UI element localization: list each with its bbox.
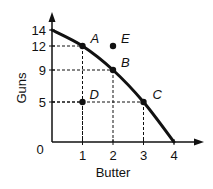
y-axis-arrow-icon xyxy=(49,12,56,22)
x-axis-arrow-icon xyxy=(194,139,204,146)
point-c-label: C xyxy=(153,87,163,102)
y-axis-label: Guns xyxy=(14,72,29,104)
point-d-marker xyxy=(79,99,85,105)
x-tick-label: 4 xyxy=(170,148,177,163)
y-tick-label: 14 xyxy=(32,23,46,38)
point-e-marker xyxy=(110,43,116,49)
x-tick-label: 2 xyxy=(109,148,116,163)
point-a-label: A xyxy=(90,31,100,46)
point-e-label: E xyxy=(121,31,130,46)
point-b-label: B xyxy=(121,55,130,70)
origin-label: 0 xyxy=(36,142,43,157)
y-tick-label: 9 xyxy=(39,63,46,78)
x-axis-label: Butter xyxy=(96,165,131,180)
x-tick-label: 1 xyxy=(79,148,86,163)
point-b-marker xyxy=(110,67,116,73)
ppf-chart: ABCDE 1234141295 Butter Guns 0 xyxy=(0,0,213,189)
x-tick-label: 3 xyxy=(140,148,147,163)
point-c-marker xyxy=(140,99,146,105)
data-points: ABCDE xyxy=(79,31,162,105)
point-d-label: D xyxy=(90,87,99,102)
point-a-marker xyxy=(79,43,85,49)
y-tick-label: 5 xyxy=(39,95,46,110)
y-tick-label: 12 xyxy=(32,39,46,54)
